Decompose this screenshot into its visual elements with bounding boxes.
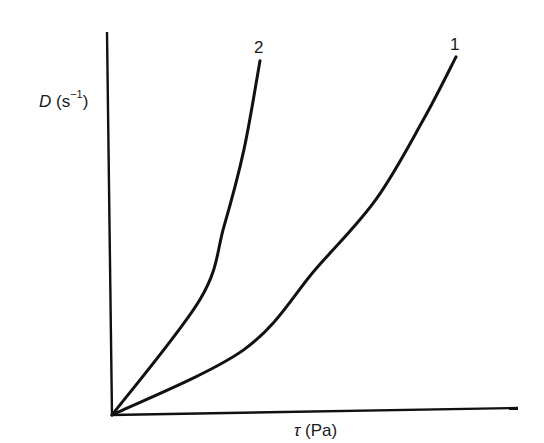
y-axis-label: D (s−1) [39,90,88,112]
curve-2-label: 2 [254,38,263,57]
x-axis-label: τ (Pa) [294,421,337,441]
curve-1-line [112,57,456,415]
x-axis-unit: (Pa) [300,421,337,440]
curve-1-label: 1 [450,35,459,54]
y-axis-unit-close: ) [83,92,89,111]
y-axis-unit-exponent: −1 [70,88,83,100]
curve-2-line [112,61,260,415]
chart-canvas: 2 1 [0,0,544,443]
y-axis-unit: (s [51,92,70,111]
y-axis [107,32,112,416]
x-axis [111,408,518,415]
y-axis-symbol: D [39,92,51,111]
